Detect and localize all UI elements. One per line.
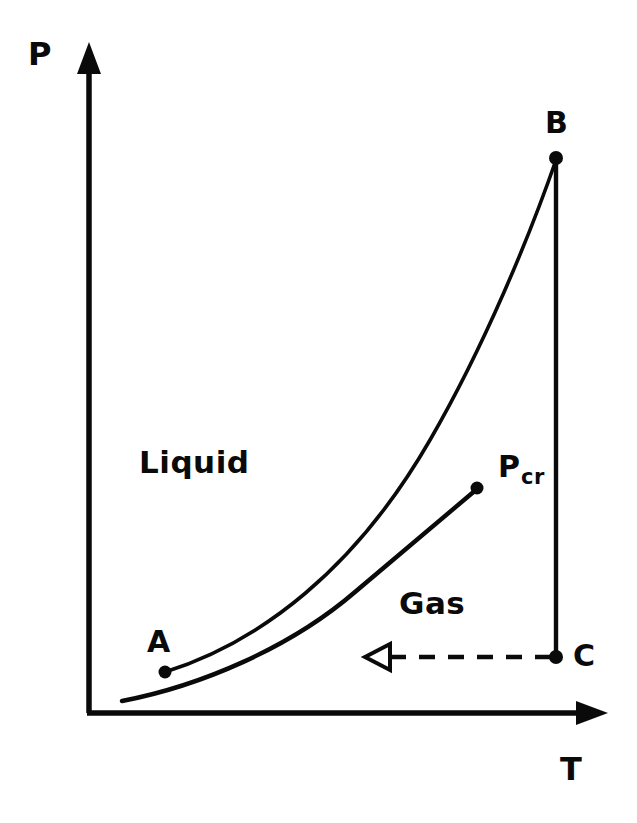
point-label-c: C [573, 641, 595, 671]
point-dot-b [549, 151, 563, 165]
point-label-pcr-base: P [498, 449, 520, 484]
open-arrowhead-icon [365, 644, 390, 670]
point-label-a: A [147, 627, 170, 657]
point-dot-pcr [471, 482, 484, 495]
point-dot-c [549, 650, 563, 664]
y-axis [77, 42, 101, 713]
phase-diagram-figure: P T Liquid Gas A B C Pcr [0, 0, 637, 823]
y-axis-label: P [28, 38, 51, 70]
point-label-pcr: Pcr [498, 452, 544, 482]
upper-boundary-curve [165, 160, 556, 672]
y-axis-arrowhead-icon [77, 42, 101, 74]
point-dot-a [159, 666, 172, 679]
region-label-gas: Gas [399, 588, 465, 619]
x-axis-label: T [560, 753, 582, 785]
point-label-pcr-subscript: cr [521, 465, 545, 489]
region-label-liquid: Liquid [139, 447, 249, 478]
dashed-process-arrow [365, 644, 551, 670]
x-axis [87, 701, 608, 725]
point-label-b: B [545, 108, 568, 138]
diagram-canvas [0, 0, 637, 823]
x-axis-arrowhead-icon [576, 701, 608, 725]
